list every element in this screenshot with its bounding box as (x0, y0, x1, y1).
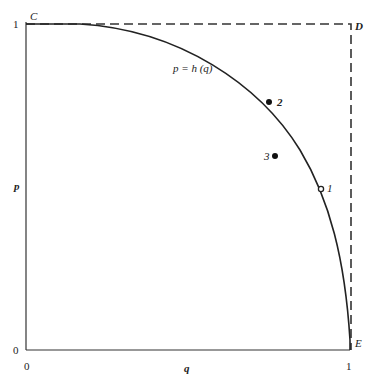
corner-label-e: E (354, 337, 362, 349)
point-2 (266, 99, 272, 105)
chart-canvas: 1 0 0 1 q p C D E p = h (q) 1 2 3 (0, 0, 373, 381)
y-axis-label: p (13, 180, 20, 192)
x-tick-0: 0 (24, 360, 30, 372)
y-tick-1: 1 (13, 18, 19, 30)
point-3-label: 3 (263, 150, 270, 162)
point-1 (318, 186, 323, 191)
point-1-label: 1 (327, 182, 333, 194)
y-tick-0: 0 (13, 344, 19, 356)
x-tick-1: 1 (346, 360, 352, 372)
point-3 (272, 153, 278, 159)
point-2-label: 2 (276, 96, 283, 108)
corner-label-d: D (354, 20, 363, 32)
x-axis-label: q (184, 362, 190, 374)
corner-label-c: C (30, 10, 38, 22)
curve-label: p = h (q) (172, 62, 213, 75)
